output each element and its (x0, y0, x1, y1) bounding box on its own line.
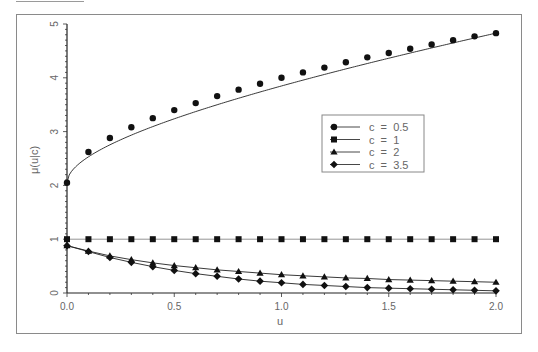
square-legend-icon (331, 137, 337, 143)
diamond-point-icon (235, 275, 243, 283)
circle-point-icon (235, 86, 241, 92)
square-point-icon (193, 236, 199, 242)
square-point-icon (472, 236, 478, 242)
y-axis-label: μ(u|c) (28, 146, 40, 174)
y-tick-label: 4 (49, 75, 60, 81)
square-point-icon (236, 236, 242, 242)
y-tick-label: 3 (49, 128, 60, 134)
circle-point-icon (85, 149, 91, 155)
diamond-point-icon (299, 281, 307, 289)
circle-point-icon (364, 54, 370, 60)
circle-point-icon (450, 37, 456, 43)
square-point-icon (257, 236, 263, 242)
diamond-point-icon (85, 248, 93, 256)
square-point-icon (386, 236, 392, 242)
square-point-icon (450, 236, 456, 242)
diamond-point-icon (63, 242, 71, 250)
y-tick-label: 1 (49, 236, 60, 242)
square-point-icon (279, 236, 285, 242)
diamond-point-icon (406, 285, 414, 293)
x-tick-label: 1.5 (382, 301, 396, 312)
square-point-icon (364, 236, 370, 242)
square-point-icon (343, 236, 349, 242)
circle-point-icon (171, 107, 177, 113)
x-tick-label: 1.0 (275, 301, 289, 312)
x-tick-label: 0.0 (60, 301, 74, 312)
legend-label: c = 2 (369, 146, 399, 158)
square-point-icon (321, 236, 327, 242)
x-tick-label: 0.5 (167, 301, 181, 312)
circle-point-icon (428, 41, 434, 47)
circle-point-icon (321, 64, 327, 70)
circle-point-icon (471, 33, 477, 39)
circle-point-icon (386, 50, 392, 56)
circle-point-icon (407, 46, 413, 52)
diamond-point-icon (192, 270, 200, 278)
series-square (64, 236, 499, 242)
square-point-icon (128, 236, 134, 242)
x-axis-label: u (277, 315, 283, 327)
diamond-point-icon (364, 284, 372, 292)
circle-point-icon (128, 124, 134, 130)
square-point-icon (493, 236, 499, 242)
circle-point-icon (64, 180, 70, 186)
circle-point-icon (107, 135, 113, 141)
x-tick-label: 2.0 (489, 301, 503, 312)
diamond-point-icon (342, 283, 350, 291)
line-chart: 0123450.00.51.01.52.0 c = 0.5c = 1c = 2c… (0, 0, 538, 352)
diamond-point-icon (213, 273, 221, 281)
square-point-icon (407, 236, 413, 242)
y-tick-label: 2 (49, 182, 60, 188)
plot-series (63, 30, 500, 295)
square-point-icon (171, 236, 177, 242)
diamond-point-icon (321, 282, 329, 290)
series-circle (64, 30, 499, 186)
circle-point-icon (257, 81, 263, 87)
square-point-icon (64, 236, 70, 242)
diamond-point-icon (428, 285, 436, 293)
circle-point-icon (193, 100, 199, 106)
circle-point-icon (493, 30, 499, 36)
square-point-icon (429, 236, 435, 242)
square-point-icon (300, 236, 306, 242)
diamond-point-icon (278, 279, 286, 287)
y-tick-label: 0 (49, 290, 60, 296)
circle-legend-icon (331, 124, 337, 130)
circle-point-icon (278, 75, 284, 81)
axes: 0123450.00.51.01.52.0 (49, 21, 503, 312)
series-diamond (63, 242, 500, 295)
y-tick-label: 5 (49, 21, 60, 27)
circle-point-icon (343, 59, 349, 65)
square-point-icon (214, 236, 220, 242)
diamond-point-icon (385, 284, 393, 292)
square-point-icon (107, 236, 113, 242)
legend-label: c = 3.5 (369, 159, 408, 171)
circle-point-icon (214, 93, 220, 99)
square-point-icon (85, 236, 91, 242)
legend-label: c = 1 (369, 134, 399, 146)
legend-label: c = 0.5 (369, 121, 408, 133)
circle-point-icon (150, 115, 156, 121)
square-point-icon (150, 236, 156, 242)
legend: c = 0.5c = 1c = 2c = 3.5 (322, 115, 424, 172)
circle-point-icon (300, 69, 306, 75)
diamond-point-icon (256, 277, 264, 285)
